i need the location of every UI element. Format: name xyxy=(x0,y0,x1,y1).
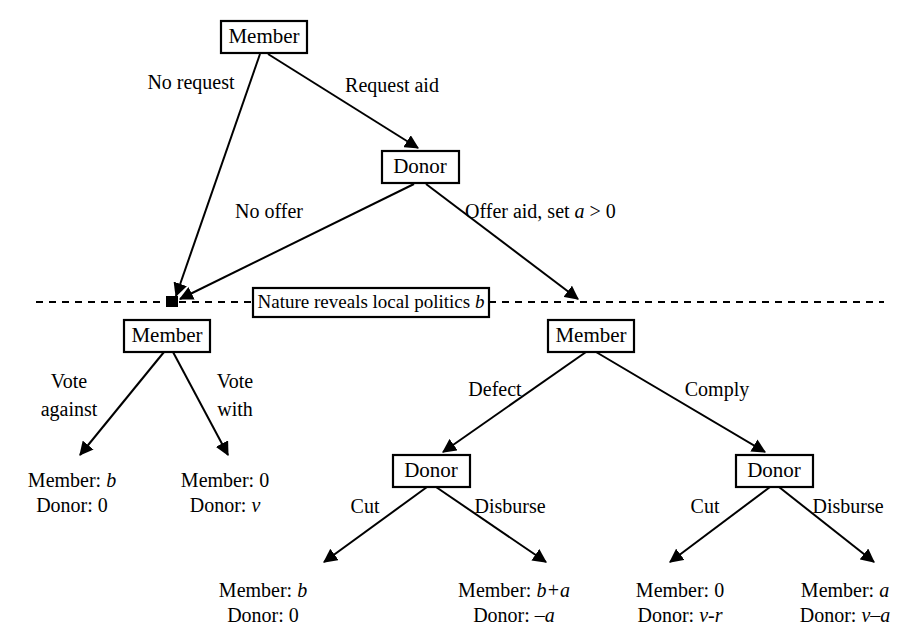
node-donor-top-label: Donor xyxy=(393,154,447,178)
payoff-6-donor-value: v–a xyxy=(861,604,890,626)
payoff-2-member-label: Member: xyxy=(181,469,254,491)
payoff-4-donor-value: –a xyxy=(534,604,555,626)
edge-label-disburse-defect: Disburse xyxy=(474,495,545,517)
payoff-3-member: Member:b xyxy=(219,579,307,601)
nature-label-variable: b xyxy=(475,291,485,312)
edge-label-vote-against-line1: Vote xyxy=(51,370,87,392)
edge-label-vote-with-line2: with xyxy=(217,398,253,420)
payoff-3-donor-label: Donor: xyxy=(227,604,284,626)
node-member-right-label: Member xyxy=(555,323,626,347)
edge-label-request-aid: Request aid xyxy=(345,74,439,97)
payoff-1-donor: Donor:0 xyxy=(36,494,108,516)
payoff-5-member: Member:0 xyxy=(636,579,724,601)
payoff-1-donor-value: 0 xyxy=(98,494,108,516)
edge-cut-comply xyxy=(670,487,770,562)
node-member-left-label: Member xyxy=(131,323,202,347)
game-tree-diagram: Nature reveals local politics b Member D… xyxy=(0,0,919,636)
nature-node-label: Nature reveals local politics b xyxy=(258,291,485,312)
edge-label-offer-aid-text: Offer aid, set xyxy=(465,200,575,222)
edge-label-offer-aid-tail: > 0 xyxy=(585,200,616,222)
payoff-2-donor-value: v xyxy=(251,494,260,516)
nature-label-text: Nature reveals local politics xyxy=(258,291,475,312)
payoff-5-member-label: Member: xyxy=(636,579,709,601)
edge-label-comply: Comply xyxy=(685,378,749,401)
payoff-4-donor: Donor:–a xyxy=(473,604,555,626)
payoff-3-member-label: Member: xyxy=(219,579,292,601)
payoff-2-donor: Donor:v xyxy=(190,494,261,516)
node-donor-defect-label: Donor xyxy=(404,458,458,482)
payoff-5-donor-label: Donor: xyxy=(638,604,695,626)
payoff-2-member: Member:0 xyxy=(181,469,269,491)
payoff-5-donor-value: v-r xyxy=(699,604,723,626)
payoff-3-donor: Donor:0 xyxy=(227,604,299,626)
payoff-6-donor-label: Donor: xyxy=(800,604,857,626)
edge-label-disburse-comply: Disburse xyxy=(812,495,883,517)
payoff-6-member-value: a xyxy=(879,579,889,601)
payoff-2-donor-label: Donor: xyxy=(190,494,247,516)
game-tree-svg: Nature reveals local politics b Member D… xyxy=(0,0,919,636)
payoff-1-member: Member:b xyxy=(28,469,116,491)
edge-label-cut-defect: Cut xyxy=(351,495,380,517)
edge-label-no-offer: No offer xyxy=(235,200,303,222)
node-root-member-label: Member xyxy=(228,24,299,48)
edge-request-aid xyxy=(268,54,418,148)
edge-label-vote-against-line2: against xyxy=(41,398,98,421)
payoff-1-member-label: Member: xyxy=(28,469,101,491)
payoff-6-member-label: Member: xyxy=(801,579,874,601)
edge-comply xyxy=(596,352,765,452)
payoff-2-member-value: 0 xyxy=(259,469,269,491)
node-donor-comply-label: Donor xyxy=(747,458,801,482)
edge-label-no-request: No request xyxy=(147,71,235,94)
edge-label-vote-with-line1: Vote xyxy=(217,370,253,392)
payoff-5-donor: Donor:v-r xyxy=(638,604,723,626)
payoff-4-member: Member:b+a xyxy=(458,579,570,601)
edge-label-offer-aid-variable: a xyxy=(575,200,585,222)
payoff-1-member-value: b xyxy=(106,469,116,491)
left-decision-node-marker xyxy=(166,296,178,307)
payoff-4-member-label: Member: xyxy=(458,579,531,601)
payoff-6-donor: Donor:v–a xyxy=(800,604,891,626)
payoff-1-donor-label: Donor: xyxy=(36,494,93,516)
edge-label-cut-comply: Cut xyxy=(691,495,720,517)
payoff-3-member-value: b xyxy=(297,579,307,601)
edge-label-offer-aid: Offer aid, set a > 0 xyxy=(465,200,616,222)
payoff-4-member-value: b+a xyxy=(536,579,570,601)
payoff-6-member: Member:a xyxy=(801,579,889,601)
edge-defect xyxy=(443,352,586,452)
payoff-4-donor-label: Donor: xyxy=(473,604,530,626)
payoff-3-donor-value: 0 xyxy=(289,604,299,626)
payoff-5-member-value: 0 xyxy=(714,579,724,601)
edge-label-defect: Defect xyxy=(468,378,522,400)
